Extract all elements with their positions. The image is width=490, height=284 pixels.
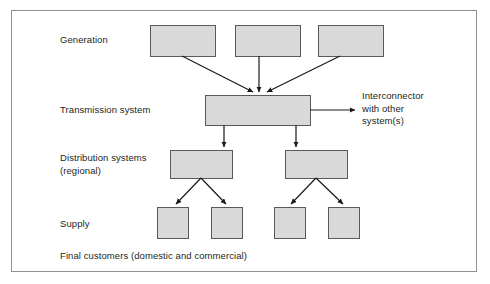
row-label-distribution: Distribution systems (regional) <box>60 152 147 177</box>
edge-gen1-transmission <box>182 56 253 92</box>
row-label-supply: Supply <box>60 218 90 231</box>
edge-dist1-supply2 <box>201 178 226 204</box>
supply-box-3 <box>275 208 306 239</box>
interconnector-label: Interconnector with other system(s) <box>362 90 424 128</box>
diagram-root: Generation Transmission system Distribut… <box>0 0 490 284</box>
supply-box-1 <box>158 208 189 239</box>
generation-box-2 <box>236 26 301 57</box>
edge-dist2-supply4 <box>316 178 343 204</box>
generation-box-3 <box>319 26 384 57</box>
supply-box-2 <box>212 208 243 239</box>
edge-gen3-transmission <box>267 56 340 92</box>
generation-box-1 <box>151 26 216 57</box>
transmission-box <box>206 96 311 126</box>
row-label-generation: Generation <box>60 34 108 47</box>
edge-dist1-supply1 <box>176 178 201 204</box>
distribution-box-1 <box>171 151 233 179</box>
caption-final-customers: Final customers (domestic and commercial… <box>60 250 247 263</box>
distribution-box-2 <box>286 151 348 179</box>
row-label-transmission: Transmission system <box>60 104 150 117</box>
edge-dist2-supply3 <box>291 178 316 204</box>
supply-box-4 <box>329 208 360 239</box>
